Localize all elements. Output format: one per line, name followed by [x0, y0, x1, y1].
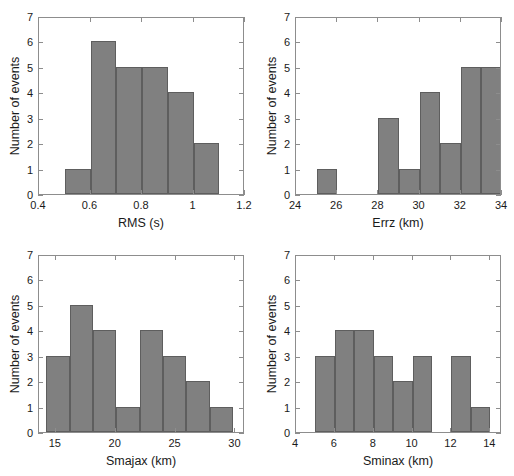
y-tick-mark [38, 280, 43, 281]
plot-area [39, 18, 243, 194]
y-tick-mark [239, 119, 244, 120]
x-tick-mark [55, 428, 56, 433]
y-tick-mark [295, 357, 300, 358]
plot-axes [295, 255, 501, 433]
x-tick-mark [336, 17, 337, 22]
histogram-bar [46, 356, 69, 432]
x-tick-mark [115, 255, 116, 260]
y-tick-label: 4 [260, 88, 290, 99]
y-tick-mark [295, 408, 300, 409]
y-tick-mark [38, 408, 43, 409]
x-tick-mark [419, 17, 420, 22]
histogram-bar [194, 143, 220, 194]
y-tick-mark [239, 357, 244, 358]
x-tick-label: 20 [95, 437, 135, 449]
y-tick-label: 1 [260, 165, 290, 176]
x-tick-label: 0.8 [121, 199, 161, 211]
y-tick-mark [38, 306, 43, 307]
plot-axes [38, 255, 244, 433]
y-tick-mark [295, 68, 300, 69]
y-tick-mark [239, 382, 244, 383]
x-tick-mark [115, 428, 116, 433]
x-tick-label: 30 [214, 437, 254, 449]
x-tick-label: 8 [353, 437, 393, 449]
histogram-bar [65, 169, 91, 194]
histogram-bar [317, 169, 338, 194]
y-tick-label: 1 [260, 403, 290, 414]
histogram-bar [93, 330, 116, 432]
histogram-bar [461, 67, 482, 194]
x-tick-mark [489, 255, 490, 260]
plot-area [39, 256, 243, 432]
x-tick-mark [295, 428, 296, 433]
x-tick-label: 1 [173, 199, 213, 211]
y-tick-label: 0 [3, 428, 33, 439]
y-tick-mark [496, 170, 501, 171]
histogram-bar [420, 92, 441, 194]
histogram-bar [140, 330, 163, 432]
x-tick-mark [460, 190, 461, 195]
y-tick-label: 3 [260, 352, 290, 363]
y-tick-label: 7 [3, 250, 33, 261]
y-tick-mark [295, 280, 300, 281]
x-tick-mark [489, 428, 490, 433]
plot-axes [38, 17, 244, 195]
y-tick-mark [38, 42, 43, 43]
histogram-bar [399, 169, 420, 194]
y-tick-mark [496, 331, 501, 332]
histogram-bar [471, 407, 490, 432]
x-tick-mark [55, 255, 56, 260]
y-tick-mark [295, 195, 300, 196]
y-tick-mark [496, 255, 501, 256]
x-tick-mark [141, 17, 142, 22]
histogram-bar [378, 118, 399, 194]
y-tick-mark [295, 93, 300, 94]
x-tick-mark [234, 428, 235, 433]
panel-rms: Number of events RMS (s) 012345670.40.60… [0, 0, 257, 238]
y-tick-label: 7 [3, 12, 33, 23]
histogram-bar [451, 356, 470, 432]
x-tick-label: 25 [155, 437, 195, 449]
histogram-bar [354, 330, 373, 432]
x-tick-mark [90, 17, 91, 22]
x-tick-mark [295, 17, 296, 22]
y-tick-mark [239, 170, 244, 171]
x-axis-title: Smajax (km) [38, 454, 244, 468]
histogram-bar [142, 67, 168, 194]
y-axis-title: Number of events [265, 269, 279, 419]
y-tick-label: 2 [3, 377, 33, 388]
y-tick-mark [38, 68, 43, 69]
histogram-bar [335, 330, 354, 432]
histogram-bar [393, 381, 412, 432]
histogram-bar [413, 356, 432, 432]
histogram-bar [186, 381, 209, 432]
y-tick-mark [496, 408, 501, 409]
y-tick-mark [496, 357, 501, 358]
x-tick-label: 4 [275, 437, 315, 449]
y-tick-label: 6 [3, 275, 33, 286]
y-tick-label: 1 [3, 403, 33, 414]
y-tick-mark [38, 144, 43, 145]
x-axis-title: Errz (km) [295, 216, 501, 230]
y-tick-mark [295, 433, 300, 434]
y-tick-label: 3 [260, 114, 290, 125]
histogram-bar [210, 407, 233, 432]
y-tick-mark [295, 382, 300, 383]
y-tick-mark [38, 195, 43, 196]
x-tick-mark [175, 255, 176, 260]
y-tick-label: 7 [260, 12, 290, 23]
y-tick-mark [496, 42, 501, 43]
x-tick-mark [295, 255, 296, 260]
y-tick-label: 6 [260, 275, 290, 286]
x-tick-mark [377, 17, 378, 22]
x-tick-label: 24 [275, 199, 315, 211]
x-tick-mark [334, 428, 335, 433]
x-tick-mark [334, 255, 335, 260]
histogram-bar [481, 67, 500, 194]
x-tick-label: 26 [316, 199, 356, 211]
x-tick-mark [244, 17, 245, 22]
histogram-bar [116, 407, 139, 432]
y-tick-label: 5 [260, 63, 290, 74]
x-axis-title: RMS (s) [38, 216, 244, 230]
y-tick-mark [38, 357, 43, 358]
